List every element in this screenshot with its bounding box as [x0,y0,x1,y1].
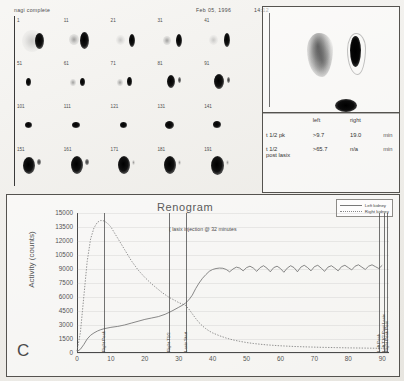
y-axis-tick: 1500 [59,335,73,342]
scan-axis-line [14,16,15,186]
scan-frame[interactable]: 171 [110,147,157,190]
x-axis-tick: 60 [277,355,284,362]
y-axis-tick: 13500 [55,223,73,230]
scan-frame-number: 31 [157,18,162,23]
scan-frame[interactable]: 41 [203,18,250,61]
y-axis-tick: 15000 [55,209,73,216]
scan-frame-number: 41 [204,18,209,23]
scan-frame-row: 151161171181191 [16,147,250,190]
gridline-horizontal [77,311,389,312]
results-row: t 1/2post lasix>65.7n/amin [263,139,399,159]
results-header-left: left [313,113,350,127]
results-row: t 1/2 pk>9.719.0min [263,127,399,139]
scan-activity-blob [72,122,80,128]
results-row-label-line1: t 1/2 pk [266,132,313,139]
scan-frame-grid: 1112131415161718191101111121131141151161… [16,18,250,190]
scan-frame-number: 81 [157,61,162,66]
scan-activity-blob [85,159,89,165]
scan-activity-blob [227,77,230,83]
scan-activity-blob [80,78,85,86]
scan-frame[interactable]: 21 [110,18,157,61]
scan-report-page: nagi complete Feb 05, 1996 14:12 1112131… [0,0,404,381]
x-axis-tick: 30 [175,355,182,362]
scan-frame-number: 131 [157,104,165,109]
scan-frame-number: 11 [64,18,69,23]
scan-frame[interactable]: 91 [203,61,250,104]
scan-activity-blob [165,121,174,129]
scan-activity-blob [214,74,224,89]
x-axis-tick: 40 [209,355,216,362]
gridline-horizontal [77,241,389,242]
results-row-label: t 1/2post lasix [263,139,313,159]
study-date: Feb 05, 1996 [196,7,231,13]
scan-frame-number: 191 [204,147,212,152]
scan-activity-blob [116,35,125,45]
scan-activity-blob [127,77,132,86]
scan-frame-number: 61 [64,61,69,66]
scan-frame[interactable]: 121 [110,104,157,147]
renogram-chart-panel: Renogram Left kidney Right kidney ( lasi… [6,194,400,377]
dynamic-scan-series-panel: nagi complete Feb 05, 1996 14:12 1112131… [0,0,250,185]
y-axis-tick: 0 [69,349,73,356]
scan-frame-number: 181 [157,147,165,152]
gridline-horizontal [77,297,389,298]
legend-label-left-kidney: Left kidney [365,203,386,208]
event-marker-label: Right Peak [101,331,106,352]
x-axis-tick: 70 [311,355,318,362]
scan-frame[interactable]: 11 [63,18,110,61]
results-value-unit: min [383,139,399,159]
gridline-horizontal [77,213,389,214]
y-axis-tick: 3000 [59,321,73,328]
scan-frame-row: 5161718191 [16,61,250,104]
scan-frame-number: 121 [111,104,119,109]
scan-frame-number: 91 [204,61,209,66]
results-row-label-line2: post lasix [266,152,313,159]
scan-frame-number: 21 [111,18,116,23]
results-header-row: leftright [263,113,399,127]
event-marker-line [379,213,380,353]
static-kidney-image-panel [262,6,400,114]
scan-activity-blob [117,79,123,86]
results-header-blank [263,113,313,127]
x-axis-tick: 10 [107,355,114,362]
scan-frame[interactable]: 101 [16,104,63,147]
scan-frame-number: 151 [17,147,25,152]
scan-frame[interactable]: 81 [156,61,203,104]
scan-frame[interactable]: 71 [110,61,157,104]
gridline-horizontal [77,283,389,284]
x-axis-tick: 20 [141,355,148,362]
scan-frame[interactable]: 161 [63,147,110,190]
scan-activity-blob [35,33,44,49]
results-table: leftrightt 1/2 pk>9.719.0mint 1/2post la… [263,113,399,159]
y-axis-tick: 10500 [55,251,73,258]
scan-activity-blob [25,122,32,128]
legend-swatch-dotted [340,211,362,212]
results-header-right: right [350,113,383,127]
scan-frame[interactable]: 131 [156,104,203,147]
scan-frame[interactable]: 1 [16,18,63,61]
gridline-horizontal [77,227,389,228]
scan-activity-blob [209,35,218,45]
scan-frame[interactable]: 141 [203,104,250,147]
scan-frame[interactable]: 181 [156,147,203,190]
y-axis-ticks: 0150030004500600075009000105001200013500… [25,207,73,353]
scan-activity-blob [69,34,79,45]
scan-frame[interactable]: 51 [16,61,63,104]
scan-frame[interactable]: 111 [63,104,110,147]
scan-frame[interactable]: 191 [203,147,250,190]
scan-activity-blob [178,160,181,165]
scan-activity-blob [167,75,175,88]
scan-activity-blob [163,36,171,45]
y-axis-tick: 12000 [55,237,73,244]
scan-activity-blob [23,157,35,174]
scan-frame-number: 101 [17,104,25,109]
scan-frame[interactable]: 151 [16,147,63,190]
scan-frame[interactable]: 61 [63,61,110,104]
scan-activity-blob [211,156,224,175]
results-value-unit: min [383,127,399,139]
scan-activity-blob [37,159,41,165]
event-marker-label: Lasix Start [183,332,188,352]
gridline-horizontal [77,339,389,340]
results-row-label-line1: t 1/2 [266,146,313,153]
scan-frame[interactable]: 31 [156,18,203,61]
